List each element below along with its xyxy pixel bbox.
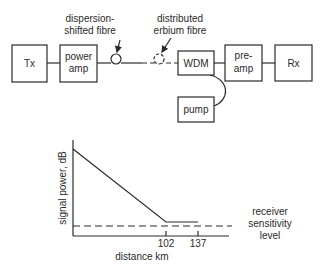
erbium-coil-icon <box>154 54 164 64</box>
x-tick-label-102: 102 <box>158 238 175 249</box>
wdm-label: WDM <box>184 58 209 69</box>
signal-power-line <box>73 149 198 222</box>
dsf-arrow-icon <box>117 40 120 52</box>
x-axis-label: distance km <box>115 251 168 262</box>
sensitivity-label-3: level <box>260 230 281 241</box>
y-axis-label: signal power, dB <box>57 151 68 225</box>
power-chart <box>73 140 232 236</box>
pre-amp-label-2: amp <box>234 63 254 74</box>
sensitivity-label-1: receiver <box>252 206 288 217</box>
erbium-annotation-2: erbium fibre <box>154 25 207 36</box>
rx-label: Rx <box>287 58 299 69</box>
system-diagram-and-power-chart: Tx power amp WDM pre- amp Rx pump disper… <box>0 0 324 269</box>
dsf-annotation-1: dispersion- <box>66 13 115 24</box>
power-amp-label-2: amp <box>69 63 89 74</box>
erbium-arrow-icon <box>162 38 171 52</box>
power-amp-label-1: power <box>65 51 93 62</box>
pump-label: pump <box>183 104 208 115</box>
tx-label: Tx <box>24 58 35 69</box>
dsf-coil-icon <box>111 54 121 64</box>
dsf-annotation-2: shifted fibre <box>64 25 116 36</box>
sensitivity-label-2: sensitivity <box>248 218 291 229</box>
erbium-annotation-1: distributed <box>157 13 203 24</box>
pre-amp-label-1: pre- <box>235 50 253 61</box>
x-tick-label-137: 137 <box>190 238 207 249</box>
